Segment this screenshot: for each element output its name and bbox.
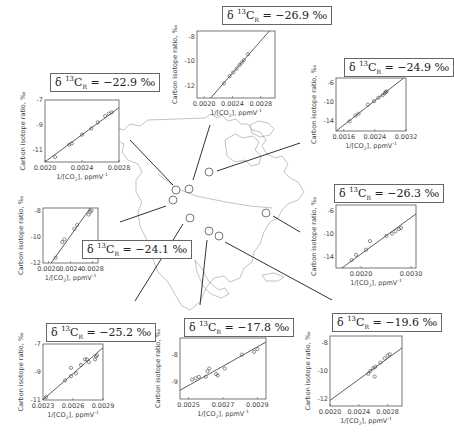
y-tick-label: -8	[322, 339, 328, 347]
x-tick-label: 0.0028	[376, 408, 399, 416]
y-tick-label: -12	[317, 395, 328, 403]
x-tick-label: 0.0024	[347, 408, 370, 416]
y-tick-label: -10	[317, 367, 328, 375]
delta-value: −19.6	[385, 316, 419, 329]
x-tick-label: 0.0020	[319, 408, 342, 416]
x-axis-label: 1/[CO2], ppmV-1	[340, 416, 392, 426]
delta-13c-label-se: δ 13CR = −19.6 ‰	[332, 313, 442, 332]
plot-area	[330, 336, 402, 406]
y-axis-label: Carbon isotope ratio, ‰	[304, 331, 312, 410]
